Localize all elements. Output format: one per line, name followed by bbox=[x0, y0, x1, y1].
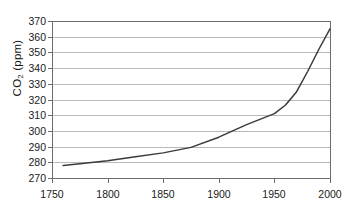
series-line-co2 bbox=[63, 29, 330, 166]
co2-curve bbox=[0, 0, 351, 213]
chart-figure: CO2 (ppm) 270280290300310320330340350360… bbox=[0, 0, 351, 213]
